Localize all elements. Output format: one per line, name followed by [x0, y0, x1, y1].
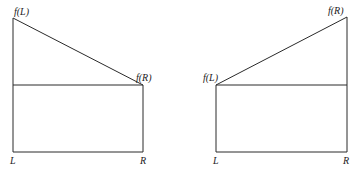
left-figure-fL-label: f(L): [14, 6, 30, 18]
trapezoid-diagram: f(L) f(R) L R f(L) f(R) L R: [0, 0, 355, 171]
right-figure-secant-line: [216, 17, 347, 85]
right-figure-fL-label: f(L): [203, 72, 219, 84]
left-figure-secant-line: [13, 18, 143, 85]
right-figure-L-label: L: [212, 155, 219, 166]
left-figure: f(L) f(R) L R: [9, 6, 152, 166]
right-figure-R-label: R: [342, 155, 349, 166]
right-figure-fR-label: f(R): [328, 5, 344, 17]
left-figure-fR-label: f(R): [136, 72, 152, 84]
left-figure-L-label: L: [9, 155, 16, 166]
right-figure: f(L) f(R) L R: [203, 5, 349, 166]
left-figure-R-label: R: [139, 155, 146, 166]
